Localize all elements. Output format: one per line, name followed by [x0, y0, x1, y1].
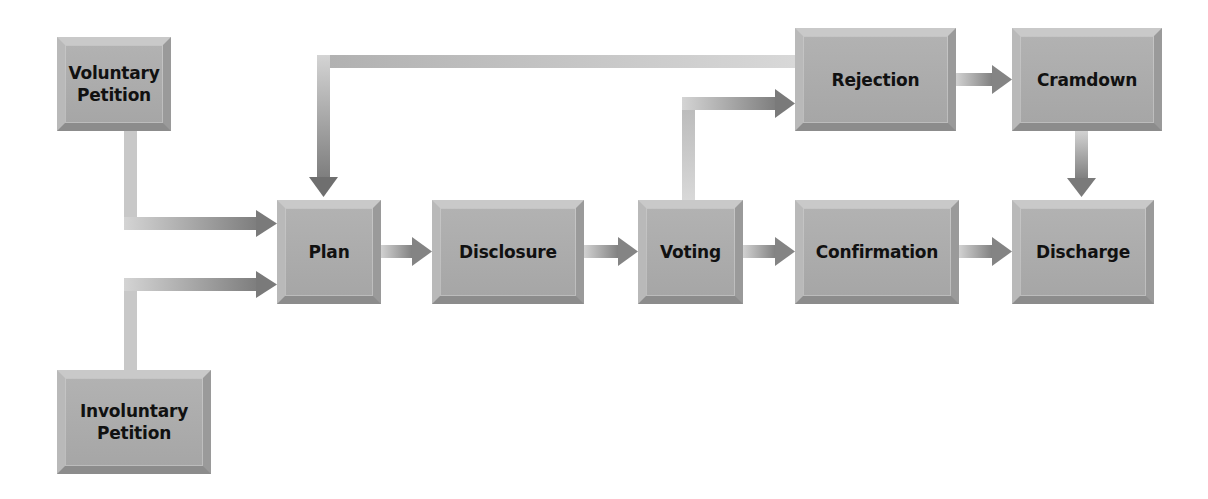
node-discharge: Discharge	[1012, 200, 1154, 304]
edge-voluntary-to-plan	[124, 130, 277, 237]
edge-rejection-to-plan	[309, 55, 795, 197]
edge-confirmation-to-discharge	[958, 237, 1012, 266]
node-label: Plan	[308, 241, 349, 263]
bankruptcy-process-diagram: Voluntary Petition Involuntary Petition …	[0, 0, 1208, 499]
node-label: Cramdown	[1037, 69, 1137, 91]
node-confirmation: Confirmation	[795, 200, 959, 304]
edge-plan-to-disclosure	[380, 237, 432, 266]
node-label: Involuntary Petition	[80, 400, 188, 444]
node-label: Disclosure	[459, 241, 557, 263]
edge-voting-to-confirmation	[742, 237, 795, 266]
node-voluntary-petition: Voluntary Petition	[57, 37, 171, 131]
edge-rejection-to-cramdown	[955, 65, 1012, 94]
node-disclosure: Disclosure	[432, 200, 584, 304]
edge-involuntary-to-plan	[124, 271, 277, 370]
node-voting: Voting	[638, 200, 743, 304]
node-plan: Plan	[277, 200, 381, 304]
node-label: Voting	[660, 241, 721, 263]
edge-voting-to-rejection	[682, 89, 795, 200]
node-rejection: Rejection	[795, 28, 956, 131]
node-label: Rejection	[832, 69, 920, 91]
node-label: Voluntary Petition	[68, 62, 159, 106]
edge-disclosure-to-voting	[583, 237, 638, 266]
node-label: Discharge	[1036, 241, 1130, 263]
edge-cramdown-to-discharge	[1067, 130, 1096, 197]
node-label: Confirmation	[816, 241, 938, 263]
node-involuntary-petition: Involuntary Petition	[57, 370, 211, 474]
node-cramdown: Cramdown	[1012, 28, 1162, 131]
